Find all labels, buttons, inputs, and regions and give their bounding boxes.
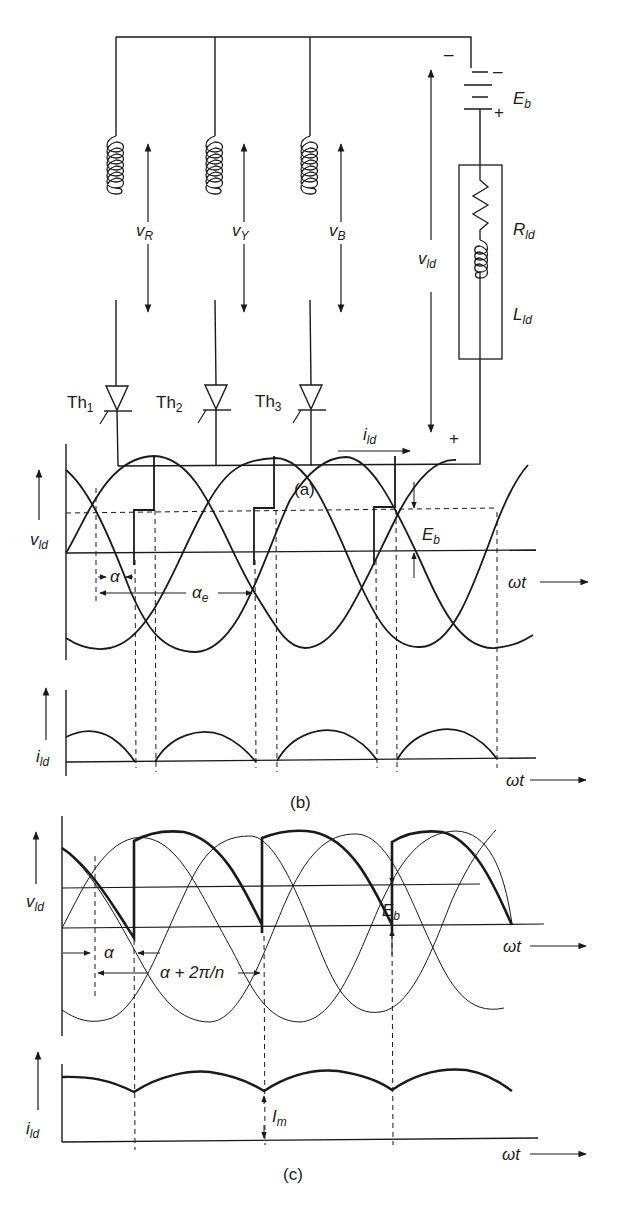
panel-b-alpha-label: α [110,567,121,586]
panel-c-eb-label: Eb [382,901,400,923]
vld-minus-sign: – [444,45,454,64]
panel-c-vld-label: vld [26,892,44,914]
panel-c-alpha-2pi-label: α + 2π/n [160,963,224,982]
panel-b-current-pulse-3 [277,730,377,761]
ild-label: ild [363,425,376,447]
th1-label: Th1 [67,393,94,415]
panel-b-wt-label: ωt [508,573,527,592]
panel-b-zero-line [66,550,536,553]
thyristor-th2-icon [205,385,227,409]
panel-b-vld-step-1 [134,456,154,565]
eb-label: Eb [513,89,531,111]
panel-b-eb-level [66,508,498,513]
phase-r-winding-icon [107,136,124,194]
phase-b-winding-icon [301,136,318,194]
lld-label: Lld [513,305,532,327]
figure-canvas: vR vY vB Th1 Th2 Th3 – – + Eb Rld Lld vl… [0,0,617,1214]
panel-b-alpha-e-label: αe [192,583,209,605]
panel-c-i-wt-label: ωt [502,1145,521,1164]
panel-b-vld-step-3 [374,456,395,565]
panel-c-current-wave [62,1070,512,1092]
panel-c-alpha-label: α [104,943,115,962]
panel-b-ild-label: ild [36,747,49,769]
vr-label: vR [136,221,154,243]
inductor-lld-icon [475,240,488,360]
phase-branch-y [198,37,231,466]
vy-label: vY [232,221,250,243]
panel-b-vld-label: vld [30,530,48,552]
panel-c-eb-level [62,884,480,888]
phase-branch-r [100,37,132,466]
rld-label: Rld [513,220,535,242]
panel-c-i-zero-line [62,1138,538,1142]
vld-plus-sign: + [449,429,459,448]
top-bus-wire [116,37,471,68]
panel-b-i-wt-label: ωt [506,771,525,790]
vb-label: vB [329,221,346,243]
panel-b-eb-label: Eb [422,525,440,547]
panel-b-phase-2-wave [66,457,533,652]
thyristor-th1-icon [106,386,128,410]
th3-label: Th3 [255,392,282,414]
panel-c-wt-label: ωt [503,937,522,956]
th2-label: Th2 [156,393,183,415]
caption-c: (c) [283,1165,303,1184]
vld-label: vld [418,249,436,271]
phase-y-winding-icon [206,136,223,194]
phase-branch-b [293,37,326,466]
panel-c-waveforms [36,816,586,1154]
resistor-rld-icon [473,165,488,240]
thyristor-th3-icon [300,385,322,409]
battery-plus-sign: + [494,103,504,122]
panel-b-i-zero-line [66,758,536,762]
caption-b: (b) [290,793,311,812]
panel-c-ild-label: ild [26,1119,39,1141]
panel-b-current-pulse-4 [397,729,497,760]
battery-eb-icon [464,72,492,165]
battery-minus-sign: – [493,62,503,81]
panel-c-im-label: Im [272,1107,287,1129]
panel-b-current-pulse-1 [66,731,135,762]
panel-b-current-pulse-2 [155,732,256,762]
